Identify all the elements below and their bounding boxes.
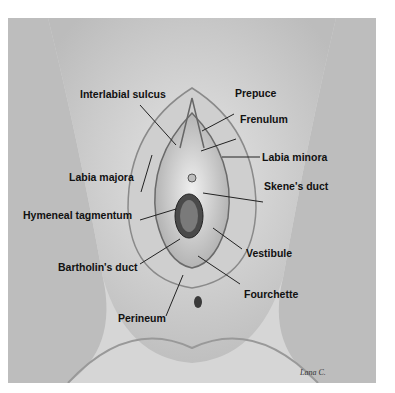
label-vestibule: Vestibule — [246, 247, 292, 259]
label-prepuce: Prepuce — [235, 87, 276, 99]
label-interlabial-sulcus: Interlabial sulcus — [80, 88, 166, 100]
label-labia-minora: Labia minora — [262, 151, 327, 163]
label-labia-majora: Labia majora — [69, 171, 134, 183]
illustration-frame: Interlabial sulcus Prepuce Frenulum Labi… — [8, 18, 376, 383]
label-skenes-duct: Skene's duct — [264, 180, 328, 192]
label-fourchette: Fourchette — [244, 288, 298, 300]
label-bartholins-duct: Bartholin's duct — [58, 261, 138, 273]
label-perineum: Perineum — [118, 312, 166, 324]
anatomical-illustration — [8, 18, 376, 383]
artist-signature: Lana C. — [300, 368, 326, 377]
label-frenulum: Frenulum — [240, 113, 288, 125]
label-hymeneal-tagmentum: Hymeneal tagmentum — [23, 209, 132, 221]
